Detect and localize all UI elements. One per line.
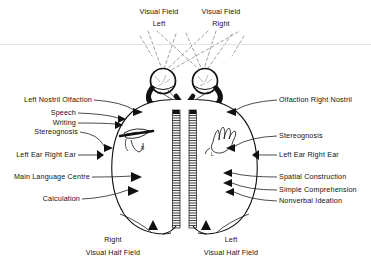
label-stereognosis-right: Stereognosis [279,132,323,140]
scan-artifact-line [0,44,371,45]
visual-field-right-title: Visual Field [190,8,252,16]
label-writing: Writing [0,119,76,127]
visual-field-right-side: Right [190,20,252,28]
label-right-visual-half-field: Visual Half Field [48,249,178,257]
visual-field-left-side: Left [128,20,190,28]
label-main-language-centre: Main Language Centre [0,173,90,181]
label-right-visual-half-field-title: Right [78,236,148,244]
label-simple-comprehension: Simple Comprehension [279,186,357,194]
visual-field-left-title: Visual Field [128,8,190,16]
label-left-ear-right-ear-left: Left Ear Right Ear [0,151,76,159]
label-speech: Speech [0,109,76,117]
left-eye [151,69,176,94]
right-eye [193,69,218,94]
right-hemisphere [191,100,257,234]
label-left-ear-right-ear-right: Left Ear Right Ear [279,151,339,159]
label-left-visual-half-field-title: Left [196,236,266,244]
label-left-nostril-olfaction: Left Nostril Olfaction [0,96,92,104]
diagram-canvas: R L [0,0,371,267]
label-olfaction-right-nostril: Olfaction Right Nostril [279,96,352,104]
label-stereognosis-left: Stereognosis [0,128,78,136]
label-calculation: Calculation [0,195,80,203]
label-left-visual-half-field: Visual Half Field [166,249,296,257]
visual-field-rays [140,31,244,73]
label-nonverbal-ideation: Nonverbal Ideation [279,197,342,205]
label-spatial-construction: Spatial Construction [279,173,346,181]
